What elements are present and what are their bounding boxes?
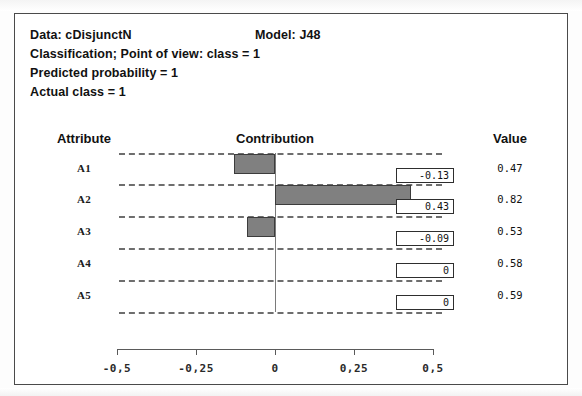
attribute-value: 0.47 — [470, 162, 550, 174]
axis-tick-label: 0,25 — [324, 362, 384, 375]
scan-artifact-top — [0, 0, 582, 11]
contribution-bar — [234, 154, 275, 174]
contribution-value-box: 0 — [396, 295, 454, 310]
row-label-a2: A2 — [29, 193, 139, 205]
attribute-value: 0.53 — [470, 225, 550, 237]
scan-artifact-bottom — [0, 388, 582, 396]
attribute-value: 0.59 — [470, 289, 550, 301]
contribution-value-box: -0.09 — [396, 231, 454, 246]
grid-line — [119, 216, 442, 218]
attribute-value: 0.58 — [470, 257, 550, 269]
screenshot-canvas: Data: cDisjunctN Model: J48 Classificati… — [0, 0, 582, 396]
axis-tick-label: -0,5 — [87, 362, 147, 375]
contribution-bar — [247, 217, 275, 237]
row-label-a1: A1 — [29, 162, 139, 174]
grid-line — [119, 280, 442, 282]
zero-axis-line — [275, 153, 276, 312]
grid-line — [119, 153, 442, 155]
row-label-a4: A4 — [29, 257, 139, 269]
contribution-value-box: 0 — [396, 263, 454, 278]
axis-tick — [354, 349, 355, 355]
grid-line — [119, 312, 442, 314]
attribute-value: 0.82 — [470, 193, 550, 205]
axis-tick — [275, 349, 276, 355]
contribution-value-box: -0.13 — [396, 168, 454, 183]
axis-tick-label: 0,5 — [403, 362, 463, 375]
row-label-a3: A3 — [29, 225, 139, 237]
axis-tick-label: -0,25 — [166, 362, 226, 375]
axis-tick-label: 0 — [245, 362, 305, 375]
grid-line — [119, 248, 442, 250]
explanation-panel: Data: cDisjunctN Model: J48 Classificati… — [14, 13, 568, 385]
contribution-bar — [275, 185, 411, 205]
contribution-value-box: 0.43 — [396, 199, 454, 214]
row-label-a5: A5 — [29, 289, 139, 301]
axis-tick — [433, 349, 434, 355]
axis-tick — [117, 349, 118, 355]
axis-tick — [196, 349, 197, 355]
contribution-chart: A1-0.130.47A20.430.82A3-0.090.53A400.58A… — [15, 14, 569, 386]
